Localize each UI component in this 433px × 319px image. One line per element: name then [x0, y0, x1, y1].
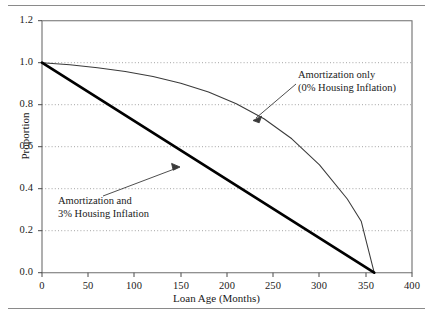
annotation-amortization-only: Amortization only (0% Housing Inflation)	[298, 68, 396, 94]
annotation-arrow-thin	[253, 84, 296, 123]
figure-container: 1.2 1.0 0.8 0.6 0.4 0.2 0.0 0 50 100 150…	[0, 0, 433, 319]
annotation-amortization-inflation: Amortization and 3% Housing Inflation	[58, 194, 149, 220]
x-tick-label-100: 100	[114, 280, 154, 291]
x-axis-ticks	[42, 273, 412, 277]
x-tick-label-250: 250	[253, 280, 293, 291]
x-tick-label-400: 400	[392, 280, 432, 291]
y-tick-label-1_2: 1.2	[1, 14, 33, 25]
x-tick-label-150: 150	[161, 280, 201, 291]
x-tick-label-0: 0	[22, 280, 62, 291]
annotation-amortization-only-line2: (0% Housing Inflation)	[298, 81, 396, 94]
x-tick-label-200: 200	[207, 280, 247, 291]
annotation-arrow-thick	[103, 163, 180, 196]
series-amortization-plus-inflation-line	[42, 63, 374, 273]
y-tick-label-1_0: 1.0	[1, 56, 33, 67]
x-tick-label-350: 350	[346, 280, 386, 291]
x-tick-label-50: 50	[68, 280, 108, 291]
x-axis-title: Loan Age (Months)	[0, 292, 433, 304]
y-axis-ticks	[38, 21, 42, 273]
chart-plot-area	[0, 0, 433, 319]
y-tick-label-0_0: 0.0	[1, 266, 33, 277]
annotation-amortization-inflation-line2: 3% Housing Inflation	[58, 207, 149, 220]
y-tick-label-0_2: 0.2	[1, 224, 33, 235]
x-tick-label-300: 300	[299, 280, 339, 291]
y-tick-label-0_4: 0.4	[1, 182, 33, 193]
annotation-amortization-inflation-line1: Amortization and	[58, 194, 149, 207]
y-axis-title: Proportion	[19, 91, 31, 181]
annotation-amortization-only-line1: Amortization only	[298, 68, 396, 81]
